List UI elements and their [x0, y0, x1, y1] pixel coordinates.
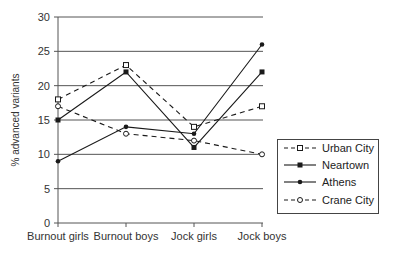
open-square-marker: [192, 124, 197, 129]
open-circle-marker: [124, 131, 129, 136]
filled-square-marker: [260, 69, 265, 74]
filled-square-marker: [298, 163, 303, 168]
filled-dot-marker: [260, 42, 265, 47]
x-tick-label: Burnout boys: [94, 230, 159, 242]
y-tick-label: 0: [44, 217, 50, 229]
x-tick-labels: Burnout girlsBurnout boysJock girlsJock …: [27, 230, 287, 242]
y-axis-title: % advanced variants: [10, 74, 21, 167]
open-circle-marker: [192, 138, 197, 143]
filled-dot-marker: [56, 159, 61, 164]
filled-square-marker: [56, 118, 61, 123]
open-square-marker: [124, 63, 129, 68]
series-line: [58, 44, 262, 161]
filled-dot-marker: [192, 131, 197, 136]
filled-dot-marker: [298, 180, 303, 185]
legend-label: Neartown: [322, 159, 369, 171]
open-square-marker: [298, 146, 303, 151]
x-tick-label: Jock boys: [238, 230, 287, 242]
legend: Urban CityNeartownAthensCrane City: [278, 140, 379, 214]
y-tick-label: 25: [38, 45, 50, 57]
y-tick-label: 15: [38, 114, 50, 126]
y-tick-label: 20: [38, 80, 50, 92]
open-circle-marker: [298, 198, 303, 203]
y-tick-labels: 051015202530: [38, 11, 50, 229]
x-tick-label: Jock girls: [171, 230, 217, 242]
y-tick-label: 30: [38, 11, 50, 23]
open-circle-marker: [260, 152, 265, 157]
gridlines: [58, 17, 263, 189]
legend-label: Urban City: [322, 142, 374, 154]
series-line: [58, 65, 262, 127]
filled-dot-marker: [124, 125, 129, 130]
axes: [54, 17, 263, 227]
open-square-marker: [260, 104, 265, 109]
series-athens: [56, 42, 265, 163]
y-tick-label: 5: [44, 183, 50, 195]
series-urban-city: [56, 63, 265, 130]
series-line: [58, 72, 262, 148]
line-chart: 051015202530 Burnout girlsBurnout boysJo…: [0, 0, 394, 256]
filled-square-marker: [192, 145, 197, 150]
open-circle-marker: [56, 104, 61, 109]
x-tick-label: Burnout girls: [27, 230, 89, 242]
y-tick-label: 10: [38, 148, 50, 160]
open-square-marker: [56, 97, 61, 102]
series-lines: [56, 42, 265, 163]
filled-square-marker: [124, 69, 129, 74]
legend-label: Crane City: [322, 194, 374, 206]
legend-label: Athens: [322, 176, 357, 188]
